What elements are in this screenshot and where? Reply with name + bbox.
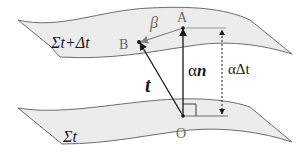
lower-surface-label: Σt: [62, 128, 78, 145]
point-A-label: A: [177, 10, 188, 25]
shift-vector-label: β: [149, 14, 158, 32]
point-O-label: O: [176, 126, 186, 141]
normal-vector-symbol: n: [197, 61, 206, 80]
3plus1-foliation-diagram: Σt+Δt Σt A B O β t αn αΔt: [0, 0, 306, 157]
point-B-label: B: [119, 37, 128, 52]
distance-label: αΔt: [228, 61, 251, 77]
normal-vector-label: αn: [188, 61, 206, 80]
normal-lapse-symbol: α: [188, 61, 197, 80]
point-A-dot: [181, 26, 185, 30]
point-B-dot: [137, 40, 141, 44]
point-O-dot: [181, 114, 185, 118]
lower-hypersurface: [18, 99, 292, 144]
tangent-vector-label: t: [145, 74, 152, 96]
upper-surface-label: Σt+Δt: [50, 34, 90, 51]
